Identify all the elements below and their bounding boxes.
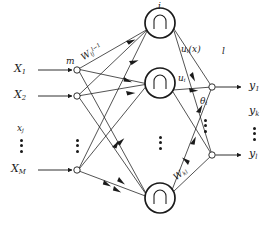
hidden-node-mid-label: ui	[178, 74, 186, 84]
arrowhead-h3-o2	[180, 157, 190, 165]
edge-im-h2	[80, 84, 148, 168]
edge-i2-h1	[80, 29, 149, 94]
activation-output-label: ui(x)	[181, 45, 201, 55]
input-vertical-dots	[20, 136, 23, 155]
input-arrows	[38, 70, 72, 170]
input-node-label-m: m	[66, 57, 75, 66]
input-vertical-dots-secondary	[76, 136, 79, 155]
output-arrows	[216, 87, 242, 155]
output-layer-label: l	[222, 47, 225, 56]
hidden-node-top	[145, 8, 175, 38]
input-label-xm: XM	[11, 163, 26, 175]
hidden-node-mid	[145, 68, 175, 98]
output-label-y1: y1	[249, 80, 260, 92]
arrowhead-i2-h3	[117, 177, 127, 186]
edge-im-h3	[80, 171, 148, 197]
output-label-yl: yl	[249, 148, 257, 160]
output-node-vertical-dots	[204, 116, 207, 135]
output-node-1	[209, 84, 215, 90]
output-node-l	[209, 152, 215, 158]
hidden-vertical-dots	[159, 133, 162, 152]
input-nodes	[74, 67, 80, 173]
hidden-node-top-label: i	[158, 2, 161, 11]
neural-network-diagram: X1 X2 xj XM m Wijl−1 i ui ui(x) l θi	[0, 0, 270, 226]
input-node-1	[74, 67, 80, 73]
input-label-x1: X1	[14, 63, 26, 75]
edge-i1-h3	[80, 72, 148, 197]
input-label-xj: xj	[17, 124, 24, 134]
arrowhead-i2-h2	[126, 90, 136, 96]
input-label-x2: X2	[14, 89, 26, 101]
arrowhead-h1-o1	[189, 72, 198, 82]
edge-i2-h2	[80, 84, 148, 96]
hidden-node-bottom	[145, 183, 175, 213]
output-vertical-dots	[253, 124, 256, 143]
hidden-nodes	[145, 8, 175, 213]
network-graph-svg	[0, 0, 270, 226]
theta-label: θi	[200, 97, 207, 107]
edge-i1-h2	[80, 70, 148, 84]
input-node-2	[74, 93, 80, 99]
arrowhead-im-h3	[102, 180, 112, 188]
output-label-yk: yk	[249, 105, 259, 117]
